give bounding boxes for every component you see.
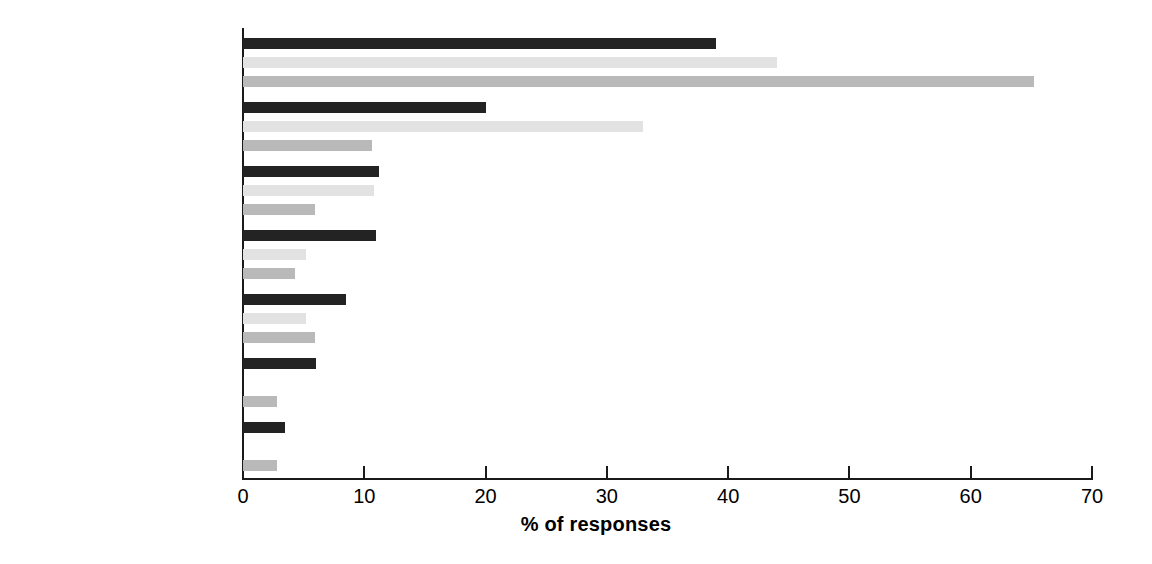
bar — [243, 358, 316, 369]
bar — [243, 294, 346, 305]
x-tick-label-30: 30 — [577, 484, 637, 508]
category-group: Community issues — [243, 294, 1092, 343]
bar — [243, 460, 277, 471]
x-tick-label-0: 0 — [213, 484, 273, 508]
bar — [243, 102, 486, 113]
x-tick-label-70: 70 — [1062, 484, 1122, 508]
bar — [243, 121, 643, 132]
bar — [243, 313, 306, 324]
bar — [243, 249, 306, 260]
bar — [243, 396, 277, 407]
bar — [243, 76, 1034, 87]
x-tick-label-10: 10 — [334, 484, 394, 508]
category-group: Standards — [243, 102, 1092, 151]
x-axis-title: % of responses — [0, 513, 1152, 536]
bar — [243, 230, 376, 241]
bar — [243, 166, 379, 177]
category-group: Cost — [243, 38, 1092, 87]
plot-area: CostStandardsConstruction issuesVATCommu… — [243, 30, 1092, 478]
x-tick-label-40: 40 — [698, 484, 758, 508]
bar — [243, 422, 285, 433]
category-group: VAT — [243, 230, 1092, 279]
x-tick-label-20: 20 — [456, 484, 516, 508]
bar — [243, 140, 372, 151]
bar — [243, 204, 315, 215]
x-axis-title-text: % of responses — [521, 513, 672, 536]
bar — [243, 185, 374, 196]
x-axis-line — [243, 478, 1093, 480]
category-group: Planning and density — [243, 358, 1092, 407]
bar-chart: 010203040506070 CostStandardsConstructio… — [0, 0, 1152, 564]
x-tick-label-60: 60 — [941, 484, 1001, 508]
bar — [243, 38, 716, 49]
category-group: Not applicable — [243, 422, 1092, 471]
x-tick-label-50: 50 — [819, 484, 879, 508]
bar — [243, 268, 295, 279]
category-group: Construction issues — [243, 166, 1092, 215]
bar — [243, 332, 315, 343]
bar — [243, 57, 777, 68]
